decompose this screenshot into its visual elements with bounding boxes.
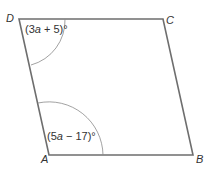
parallelogram-diagram: D C A B (3a + 5)° (5a − 17)° — [0, 0, 205, 170]
angle-label-a: (5a − 17)° — [47, 130, 96, 142]
vertex-label-d: D — [6, 12, 14, 24]
angle-d-prefix: (3 — [25, 23, 35, 35]
vertex-label-a: A — [40, 153, 48, 165]
angle-a-suffix: − 17)° — [63, 130, 96, 142]
vertex-label-c: C — [166, 14, 174, 26]
angle-a-prefix: (5 — [47, 130, 57, 142]
angle-d-suffix: + 5)° — [41, 23, 68, 35]
parallelogram-abcd — [19, 19, 193, 155]
angle-label-d: (3a + 5)° — [25, 23, 68, 35]
vertex-label-b: B — [196, 153, 203, 165]
